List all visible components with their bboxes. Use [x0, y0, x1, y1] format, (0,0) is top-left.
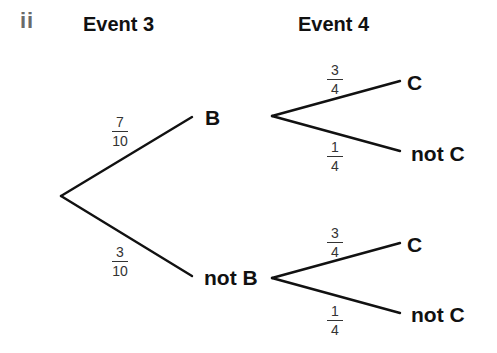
prob-not-C-given-not-B: 1 4	[327, 304, 343, 337]
node-not-B: not B	[204, 267, 258, 288]
node-C-after-B: C	[407, 72, 422, 93]
prob-not-B-numerator: 3	[112, 245, 128, 262]
prob-C-given-B-denominator: 4	[331, 80, 339, 96]
node-B: B	[205, 107, 220, 128]
prob-B-denominator: 10	[112, 132, 128, 148]
node-C-after-not-B: C	[407, 234, 422, 255]
prob-not-C-given-not-B-numerator: 1	[327, 304, 343, 321]
prob-not-C-given-B-denominator: 4	[331, 157, 339, 173]
prob-C-given-B: 3 4	[327, 63, 343, 96]
node-not-C-after-B: not C	[411, 143, 465, 164]
prob-not-C-given-B-numerator: 1	[327, 140, 343, 157]
prob-C-given-not-B-denominator: 4	[331, 243, 339, 259]
prob-C-given-B-numerator: 3	[327, 63, 343, 80]
tree-branches	[0, 0, 497, 353]
prob-B: 7 10	[112, 115, 128, 148]
node-not-C-after-not-B: not C	[411, 304, 465, 325]
prob-C-given-not-B-numerator: 3	[327, 226, 343, 243]
prob-not-B: 3 10	[112, 245, 128, 278]
prob-B-numerator: 7	[112, 115, 128, 132]
prob-C-given-not-B: 3 4	[327, 226, 343, 259]
prob-not-C-given-B: 1 4	[327, 140, 343, 173]
prob-not-B-denominator: 10	[112, 262, 128, 278]
prob-not-C-given-not-B-denominator: 4	[331, 321, 339, 337]
